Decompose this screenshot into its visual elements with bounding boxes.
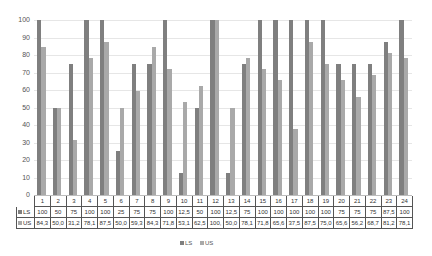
bar-us-14 xyxy=(246,58,250,195)
value-cell: 56,2 xyxy=(350,218,366,229)
series-header-ls: LS xyxy=(17,207,35,218)
category-cell: 15 xyxy=(255,196,271,207)
bar-us-22 xyxy=(372,75,376,195)
value-cell: 100 xyxy=(35,207,51,218)
value-cell: 87,5 xyxy=(98,218,114,229)
legend-label-ls: LS xyxy=(185,240,192,246)
value-cell: 100 xyxy=(208,207,224,218)
bar-us-6 xyxy=(120,108,124,196)
category-cell: 7 xyxy=(129,196,145,207)
plot-area xyxy=(34,20,412,195)
category-cell: 16 xyxy=(271,196,287,207)
value-cell: 53,1 xyxy=(176,218,192,229)
y-tick-label: 50 xyxy=(6,104,30,112)
value-cell: 84,3 xyxy=(35,218,51,229)
value-cell: 62,5 xyxy=(192,218,208,229)
category-cell: 3 xyxy=(66,196,82,207)
value-cell: 31,2 xyxy=(66,218,82,229)
legend-swatch-us xyxy=(200,241,204,245)
bar-us-20 xyxy=(341,80,345,195)
y-tick-label: 40 xyxy=(6,121,30,129)
value-cell: 100 xyxy=(397,207,413,218)
category-cell: 2 xyxy=(50,196,66,207)
category-cell: 22 xyxy=(365,196,381,207)
value-cell: 75 xyxy=(350,207,366,218)
value-cell: 50 xyxy=(192,207,208,218)
value-cell: 59,3 xyxy=(129,218,145,229)
bar-us-2 xyxy=(57,108,61,196)
value-cell: 12,5 xyxy=(176,207,192,218)
category-row: 123456789101112131415161718192021222324 xyxy=(17,196,413,207)
y-tick-label: 90 xyxy=(6,34,30,42)
bar-us-1 xyxy=(41,47,45,195)
bar-us-11 xyxy=(199,86,203,195)
value-cell: 75 xyxy=(365,207,381,218)
value-cell: 81,2 xyxy=(381,218,397,229)
series-name-ls: LS xyxy=(23,209,30,215)
data-table: 123456789101112131415161718192021222324 … xyxy=(16,196,413,229)
category-cell: 8 xyxy=(145,196,161,207)
value-cell: 71,8 xyxy=(255,218,271,229)
corner-cell xyxy=(17,196,35,207)
value-cell: 78,1 xyxy=(239,218,255,229)
y-tick-label: 100 xyxy=(6,16,30,24)
bar-us-8 xyxy=(152,47,156,195)
bar-us-18 xyxy=(309,42,313,195)
value-cell: 12,5 xyxy=(224,207,240,218)
category-cell: 19 xyxy=(318,196,334,207)
value-cell: 50,0 xyxy=(224,218,240,229)
bar-us-16 xyxy=(278,80,282,195)
bar-us-23 xyxy=(388,53,392,195)
bar-us-10 xyxy=(183,102,187,195)
series-header-us: US xyxy=(17,218,35,229)
value-cell: 75 xyxy=(66,207,82,218)
bar-us-17 xyxy=(293,129,297,195)
value-cell: 75 xyxy=(334,207,350,218)
value-cell: 100 xyxy=(82,207,98,218)
value-cell: 75 xyxy=(129,207,145,218)
y-tick-label: 80 xyxy=(6,51,30,59)
bar-us-3 xyxy=(73,140,77,195)
category-cell: 20 xyxy=(334,196,350,207)
value-cell: 87,5 xyxy=(381,207,397,218)
y-tick-label: 60 xyxy=(6,86,30,94)
value-cell: 50,0 xyxy=(113,218,129,229)
value-cell: 65,6 xyxy=(271,218,287,229)
bar-us-12 xyxy=(215,20,219,195)
value-cell: 100, xyxy=(208,218,224,229)
y-tick-label: 10 xyxy=(6,174,30,182)
value-cell: 71,8 xyxy=(161,218,177,229)
value-cell: 84,3 xyxy=(145,218,161,229)
value-cell: 78,1 xyxy=(82,218,98,229)
bar-us-4 xyxy=(89,58,93,195)
series-row-us: US 84,350,031,278,187,550,059,384,371,85… xyxy=(17,218,413,229)
y-tick-label: 70 xyxy=(6,69,30,77)
bar-us-15 xyxy=(262,69,266,195)
bar-us-5 xyxy=(104,42,108,195)
y-tick-label: 30 xyxy=(6,139,30,147)
value-cell: 100 xyxy=(287,207,303,218)
value-cell: 100 xyxy=(318,207,334,218)
category-cell: 13 xyxy=(224,196,240,207)
category-cell: 17 xyxy=(287,196,303,207)
value-cell: 100 xyxy=(302,207,318,218)
bar-us-9 xyxy=(167,69,171,195)
y-tick-label: 20 xyxy=(6,156,30,164)
value-cell: 100 xyxy=(161,207,177,218)
value-cell: 100 xyxy=(271,207,287,218)
legend: LS US xyxy=(180,240,219,246)
category-cell: 4 xyxy=(82,196,98,207)
bar-us-19 xyxy=(325,64,329,195)
category-cell: 21 xyxy=(350,196,366,207)
value-cell: 50 xyxy=(50,207,66,218)
value-cell: 75,0 xyxy=(318,218,334,229)
category-cell: 23 xyxy=(381,196,397,207)
category-cell: 1 xyxy=(35,196,51,207)
legend-label-us: US xyxy=(205,240,213,246)
value-cell: 37,5 xyxy=(287,218,303,229)
category-cell: 5 xyxy=(98,196,114,207)
value-cell: 78,1 xyxy=(397,218,413,229)
legend-item-ls: LS xyxy=(180,240,194,246)
category-cell: 24 xyxy=(397,196,413,207)
legend-item-us: US xyxy=(200,240,213,246)
